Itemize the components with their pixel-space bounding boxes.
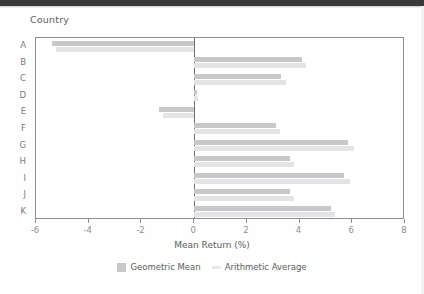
y-tick-label-g: G [19,140,26,150]
bar-group-h [36,154,403,171]
y-tick-label-d: D [19,90,26,100]
bar-i-geometric-mean [194,173,344,178]
bar-c-geometric-mean [194,74,281,79]
x-tick-label-7: 8 [401,225,406,235]
bar-b-geometric-mean [194,57,302,62]
bar-a-arithmetic-average [56,47,194,52]
y-tick-label-c: C [20,73,26,83]
x-tick-label-3: 0 [190,225,195,235]
y-tick-label-b: B [20,57,26,67]
chart-screenshot: Country ABCDEFGHIJK -6-4-202468 Mean Ret… [0,0,424,294]
x-tick-2 [140,219,141,223]
x-tick-label-5: 4 [296,225,301,235]
x-tick-label-1: -4 [83,225,91,235]
legend-swatch-icon-1 [212,266,221,269]
x-tick-3 [193,219,194,223]
bar-group-i [36,170,403,187]
bar-g-arithmetic-average [194,146,353,151]
x-tick-1 [88,219,89,223]
x-tick-0 [35,219,36,223]
bar-group-f [36,121,403,138]
bar-c-arithmetic-average [194,80,286,85]
x-tick-label-2: -2 [136,225,144,235]
bar-j-arithmetic-average [194,196,294,201]
bar-group-d [36,88,403,105]
bar-g-geometric-mean [194,140,348,145]
bar-f-arithmetic-average [194,129,280,134]
bar-j-geometric-mean [194,189,290,194]
bar-k-geometric-mean [194,206,331,211]
bar-h-arithmetic-average [194,162,294,167]
window-edge-shadow [0,6,424,8]
chart-legend: Geometric MeanArithmetic Average [0,262,424,272]
bar-group-j [36,187,403,204]
bar-d-geometric-mean [194,90,197,95]
bar-e-geometric-mean [159,107,195,112]
bar-k-arithmetic-average [194,212,335,217]
bar-d-arithmetic-average [194,96,198,101]
x-tick-label-0: -6 [31,225,39,235]
legend-swatch-icon-0 [117,263,126,272]
bar-i-arithmetic-average [194,179,350,184]
bar-group-a [36,38,403,55]
bar-group-b [36,55,403,72]
x-tick-6 [351,219,352,223]
plot-area [35,37,404,219]
page-title: Country [30,14,69,25]
x-tick-7 [404,219,405,223]
y-tick-label-k: K [20,206,26,216]
bar-group-c [36,71,403,88]
x-tick-5 [299,219,300,223]
x-tick-label-4: 2 [243,225,248,235]
legend-item-arithmetic-average[interactable]: Arithmetic Average [212,262,307,272]
legend-label: Geometric Mean [130,262,200,272]
x-tick-label-6: 6 [349,225,354,235]
legend-label: Arithmetic Average [225,262,307,272]
legend-item-geometric-mean[interactable]: Geometric Mean [117,262,200,272]
bar-b-arithmetic-average [194,63,306,68]
y-tick-label-f: F [21,123,26,133]
y-tick-label-a: A [20,40,26,50]
y-tick-label-h: H [20,156,26,166]
y-axis-labels: ABCDEFGHIJK [0,37,33,219]
x-axis-title: Mean Return (%) [0,240,424,250]
bar-a-geometric-mean [52,41,194,46]
bar-e-arithmetic-average [163,113,195,118]
bar-group-k [36,203,403,220]
bar-group-g [36,137,403,154]
bar-h-geometric-mean [194,156,290,161]
bar-group-e [36,104,403,121]
x-tick-4 [246,219,247,223]
bars-container [36,38,403,218]
bar-f-geometric-mean [194,123,276,128]
y-tick-label-j: J [23,189,26,199]
y-tick-label-i: I [23,173,26,183]
y-tick-label-e: E [21,106,26,116]
